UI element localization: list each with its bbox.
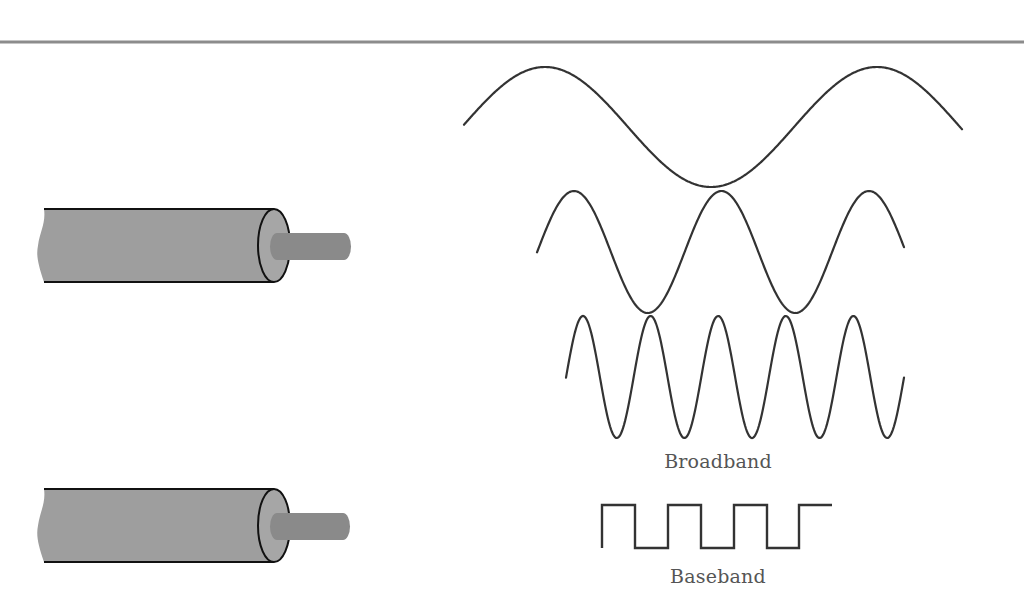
broadband-label: Broadband [664,450,772,472]
cable-jacket [37,209,290,282]
cable-core-conductor [270,513,350,540]
high-frequency-sine-wave [566,316,904,438]
baseband-square-wave [602,505,832,548]
low-frequency-sine-wave [464,67,962,187]
cable-core-conductor [270,233,351,260]
mid-frequency-sine-wave [537,191,904,313]
baseband-label: Baseband [670,565,766,587]
signal-diagram [0,0,1024,616]
cable-jacket [37,489,290,562]
baseband-coaxial-cable-icon [37,489,350,562]
top-divider-rule [0,41,1024,44]
broadband-coaxial-cable-icon [37,209,351,282]
